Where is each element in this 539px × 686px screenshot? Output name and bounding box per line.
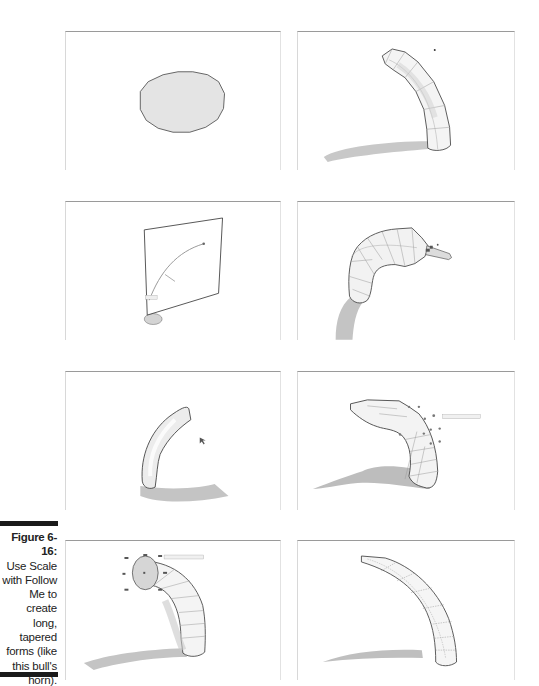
tube-body: [382, 49, 450, 150]
circle-face-drawing: [66, 32, 280, 170]
tooltip: [145, 295, 157, 299]
plane-arc-drawing: [66, 202, 280, 340]
scale-grip: [426, 249, 430, 252]
curved-tube-drawing: [66, 372, 280, 510]
figure-label: Figure 6-16:: [0, 530, 57, 559]
caption-line: Me to: [0, 587, 57, 601]
panel-4-follow-me: [297, 201, 515, 340]
caption-rule-top: [0, 521, 58, 526]
caption-line: this bull's: [0, 659, 57, 673]
horn-body: [361, 556, 456, 666]
caption-line: Use Scale: [0, 559, 57, 573]
finished-horn-drawing: [298, 541, 514, 680]
caption-rule-bottom: [0, 672, 58, 677]
panel-2-bent-tube: [297, 31, 515, 170]
vertical-plane: [144, 218, 222, 315]
caption-line: forms (like: [0, 644, 57, 658]
panel-5-curved-tube: [65, 371, 281, 510]
tooltip: [443, 415, 481, 419]
tooltip: [164, 555, 204, 559]
panel-6-scale-grips: [297, 371, 515, 510]
panel-3-plane-arc: [65, 201, 281, 340]
caption-line: with Follow: [0, 573, 57, 587]
caption-line: create long,: [0, 601, 57, 630]
follow-me-drawing: [298, 202, 514, 340]
shadow: [324, 141, 429, 162]
bent-tube-drawing: [298, 32, 514, 170]
panel-7-scale-end-face: [65, 540, 281, 680]
panel-8-finished-horn: [297, 540, 515, 680]
tube-body: [349, 228, 429, 303]
shadow: [323, 650, 423, 662]
caption-line: tapered: [0, 630, 57, 644]
cursor-icon: [200, 438, 206, 445]
tapered-tip: [426, 246, 452, 260]
cursor-dot: [434, 49, 436, 51]
scale-grips-drawing: [298, 372, 514, 510]
figure-caption: Figure 6-16: Use Scale with Follow Me to…: [0, 530, 57, 686]
panel-1-circle: [65, 31, 281, 170]
scale-end-face-drawing: [66, 541, 280, 680]
shadow: [84, 648, 187, 670]
tube-body: [142, 407, 191, 488]
circle-face: [140, 72, 224, 132]
